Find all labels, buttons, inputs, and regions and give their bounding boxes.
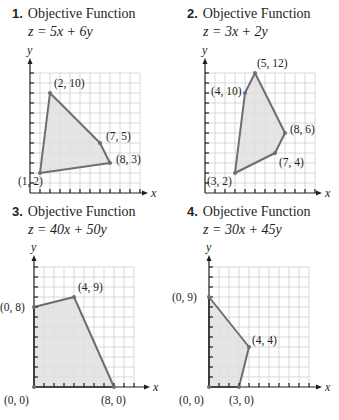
vertex-point: [207, 385, 211, 389]
vertex-point: [98, 141, 102, 145]
vertex-point: [273, 151, 277, 155]
graph-2: yx(3, 2)(4, 10)(5, 12)(8, 6)(7, 4): [201, 43, 331, 200]
y-axis-label: y: [201, 43, 208, 57]
x-axis-label: x: [324, 380, 331, 394]
vertex-label: (8, 6): [290, 123, 315, 136]
graph-4: yx(0, 0)(0, 9)(4, 4)(3, 0): [172, 240, 331, 407]
x-axis-label: x: [152, 380, 159, 394]
vertex-label: (1, 2): [18, 175, 43, 188]
x-axis-label: x: [150, 186, 157, 200]
feasible-region-graphs: yx(1, 2)(2, 10)(7, 5)(8, 3)yx(3, 2)(4, 1…: [0, 0, 339, 420]
y-axis-arrow-icon: [203, 58, 208, 64]
vertex-label: (0, 0): [4, 394, 29, 407]
graph-1: yx(1, 2)(2, 10)(7, 5)(8, 3): [18, 43, 157, 200]
vertex-label: (5, 12): [257, 57, 288, 70]
vertex-point: [72, 295, 76, 299]
vertex-point: [243, 91, 247, 95]
vertex-label: (4, 10): [211, 85, 242, 98]
vertex-label: (2, 10): [54, 77, 85, 90]
vertex-point: [233, 171, 237, 175]
vertex-point: [247, 345, 251, 349]
vertex-label: (8, 3): [116, 153, 141, 166]
vertex-point: [283, 131, 287, 135]
vertex-label: (7, 4): [279, 156, 304, 169]
x-axis-arrow-icon: [316, 385, 322, 390]
vertex-point: [207, 295, 211, 299]
x-axis-arrow-icon: [144, 385, 150, 390]
vertex-label: (7, 5): [106, 130, 131, 143]
vertex-point: [108, 161, 112, 165]
x-axis-arrow-icon: [316, 191, 322, 196]
x-axis-arrow-icon: [142, 191, 148, 196]
vertex-label: (0, 9): [172, 291, 197, 304]
vertex-point: [48, 91, 52, 95]
y-axis-label: y: [205, 240, 212, 254]
vertex-label: (3, 0): [229, 394, 254, 407]
y-axis-arrow-icon: [32, 255, 37, 261]
graph-3: yx(0, 0)(0, 8)(4, 9)(8, 0): [0, 240, 159, 407]
vertex-label: (3, 2): [207, 175, 232, 188]
vertex-label: (0, 0): [179, 394, 204, 407]
y-axis-label: y: [26, 43, 33, 57]
y-axis-arrow-icon: [28, 58, 33, 64]
vertex-point: [112, 385, 116, 389]
y-axis-label: y: [30, 240, 37, 254]
vertex-label: (4, 4): [252, 334, 277, 347]
vertex-point: [32, 385, 36, 389]
vertex-label: (0, 8): [0, 301, 25, 314]
feasible-region: [34, 297, 114, 387]
vertex-label: (8, 0): [101, 394, 126, 407]
vertex-point: [237, 385, 241, 389]
feasible-region: [235, 73, 285, 173]
vertex-point: [253, 71, 257, 75]
y-axis-arrow-icon: [207, 255, 212, 261]
x-axis-label: x: [324, 186, 331, 200]
vertex-point: [32, 305, 36, 309]
vertex-label: (4, 9): [78, 281, 103, 294]
